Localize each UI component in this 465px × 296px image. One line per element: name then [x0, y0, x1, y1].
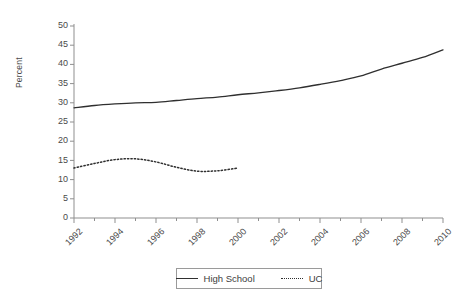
y-tick-label: 10	[58, 175, 68, 184]
legend-item-uc: UC	[281, 273, 323, 284]
data-series-layer	[74, 50, 443, 172]
legend-item-high-school: High School	[176, 273, 255, 284]
plot-area	[0, 0, 465, 296]
y-tick-label: 20	[58, 136, 68, 145]
legend-solid-line-icon	[176, 278, 198, 279]
y-tick-label: 5	[63, 194, 68, 203]
legend-label: High School	[204, 273, 255, 284]
series-line-uc	[74, 159, 238, 172]
y-tick-label: 0	[63, 213, 68, 222]
legend-label: UC	[309, 273, 323, 284]
x-axis-ticks	[74, 218, 443, 223]
y-axis-title: Percent	[14, 8, 24, 88]
axis-lines	[74, 24, 443, 218]
series-line-high-school	[74, 50, 443, 108]
y-tick-label: 35	[58, 79, 68, 88]
chart-legend: High School UC	[176, 268, 322, 289]
y-tick-label: 25	[58, 117, 68, 126]
legend-dotted-line-icon	[281, 278, 303, 279]
y-tick-label: 50	[58, 21, 68, 30]
y-tick-label: 45	[58, 40, 68, 49]
y-tick-label: 30	[58, 98, 68, 107]
y-axis-ticks	[70, 26, 74, 218]
y-tick-label: 15	[58, 156, 68, 165]
line-chart: Percent 50 45 40 35 30 25 20 15 10 5 0 1…	[0, 0, 465, 296]
y-tick-label: 40	[58, 59, 68, 68]
